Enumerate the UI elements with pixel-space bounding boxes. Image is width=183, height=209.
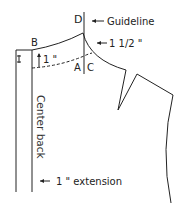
label-guideline: Guideline	[107, 16, 154, 27]
shoulder-dart	[118, 70, 173, 110]
new-neckline-dashed	[32, 53, 92, 68]
label-b: B	[31, 37, 38, 48]
label-a: A	[74, 62, 81, 73]
pattern-diagram: D Guideline 1 1/2 " B 1 " A C Center bac…	[0, 0, 183, 209]
armhole-curve	[166, 95, 173, 203]
label-one-inch: 1 "	[43, 55, 57, 65]
label-one-half-inch: 1 1/2 "	[109, 38, 142, 49]
label-center-back: Center back	[35, 95, 46, 159]
label-d: D	[74, 14, 82, 25]
label-c: C	[87, 62, 94, 73]
neckline-curve	[32, 33, 83, 50]
label-extension: 1 " extension	[56, 176, 122, 187]
extension-line	[16, 50, 32, 192]
